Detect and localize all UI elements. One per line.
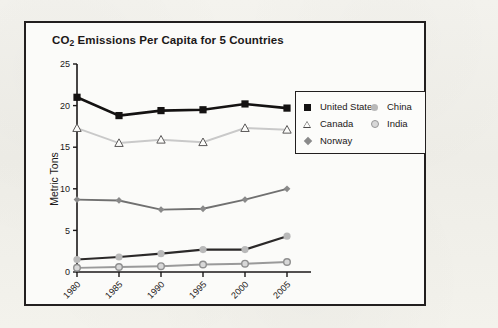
data-point	[116, 197, 123, 204]
x-tick-label: 2005	[271, 279, 292, 300]
y-tick-label: 0	[65, 267, 70, 277]
data-point	[284, 259, 291, 266]
data-point	[157, 250, 164, 257]
data-point	[242, 260, 249, 267]
legend-item-united-states[interactable]: United States	[303, 98, 377, 115]
legend-item-china[interactable]: China	[370, 98, 412, 115]
series-line	[77, 262, 287, 268]
data-point	[200, 205, 207, 212]
data-point	[199, 246, 206, 253]
series-norway	[74, 185, 291, 213]
data-point	[284, 185, 291, 192]
chart-panel: CO2 Emissions Per Capita for 5 Countries…	[24, 21, 426, 306]
chart-svg: 0510152025198019851990199520002005	[26, 23, 428, 308]
data-point	[73, 94, 80, 101]
data-point	[283, 233, 290, 240]
series-line	[77, 236, 287, 259]
y-tick-label: 20	[60, 101, 70, 111]
data-point	[74, 265, 81, 272]
data-point	[73, 124, 81, 132]
x-tick-label: 1990	[145, 279, 166, 300]
legend-column-right: China India	[370, 98, 412, 132]
legend-label-india: India	[387, 118, 408, 129]
data-point	[158, 263, 165, 270]
data-point	[115, 253, 122, 260]
series-line	[77, 189, 287, 210]
filled-square-icon	[303, 101, 315, 113]
x-tick-label: 1995	[187, 279, 208, 300]
y-tick-label: 25	[60, 59, 70, 69]
series-india	[74, 259, 291, 271]
data-point	[116, 264, 123, 271]
plot-area: 0510152025198019851990199520002005 Metri…	[26, 23, 428, 308]
series-canada	[73, 124, 291, 147]
y-tick-label: 15	[60, 142, 70, 152]
x-tick-label: 1980	[61, 279, 82, 300]
data-point	[115, 112, 122, 119]
legend-column-left: United States Canada Norway	[303, 98, 377, 149]
legend-item-norway[interactable]: Norway	[303, 132, 377, 149]
series-united-states	[73, 94, 290, 120]
open-triangle-icon	[303, 118, 315, 130]
chart-legend: United States Canada Norway China India	[295, 91, 426, 154]
data-point	[199, 106, 206, 113]
x-tick-label: 2000	[229, 279, 250, 300]
data-point	[200, 261, 207, 268]
series-line	[77, 128, 287, 143]
data-point	[283, 104, 290, 111]
data-point	[241, 100, 248, 107]
x-tick-label: 1985	[103, 279, 124, 300]
data-point	[158, 206, 165, 213]
data-point	[74, 196, 81, 203]
legend-label-norway: Norway	[320, 135, 352, 146]
legend-item-canada[interactable]: Canada	[303, 115, 377, 132]
donut-circle-icon	[370, 118, 382, 130]
legend-label-canada: Canada	[320, 118, 353, 129]
data-point	[241, 246, 248, 253]
series-line	[77, 97, 287, 115]
legend-item-india[interactable]: India	[370, 115, 412, 132]
y-axis-title: Metric Tons	[48, 129, 60, 229]
filled-circle-icon	[370, 101, 382, 113]
data-point	[73, 256, 80, 263]
y-tick-label: 10	[60, 184, 70, 194]
data-point	[157, 107, 164, 114]
data-point	[242, 196, 249, 203]
series-group	[73, 94, 291, 271]
filled-diamond-icon	[303, 135, 315, 147]
series-china	[73, 233, 290, 263]
legend-label-china: China	[387, 101, 412, 112]
y-tick-label: 5	[65, 226, 70, 236]
legend-label-united-states: United States	[320, 101, 377, 112]
